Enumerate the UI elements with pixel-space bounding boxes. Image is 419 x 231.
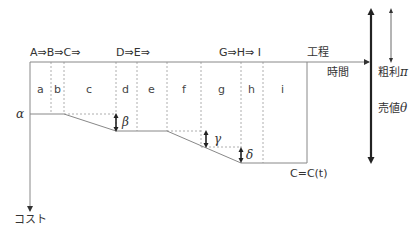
gross-profit-label: 粗利π [378,65,409,79]
cell-a: a [37,83,44,96]
process-label-abc: A⇒B⇒C⇒ [30,46,80,59]
cell-separators [51,62,263,163]
sales-value-label: 売値θ [378,101,408,115]
cell-c: c [86,83,92,96]
cell-h: h [248,83,255,96]
cell-d: d [122,83,129,96]
cost-time-diagram: A⇒B⇒C⇒ D⇒E⇒ G⇒H⇒ I 工程 時間 a b c d e f g h… [0,0,419,231]
gamma-label: γ [214,132,222,146]
alpha-label: α [16,107,24,121]
gross-profit-arrow [389,8,393,63]
time-axis-label: 時間 [327,66,349,79]
cell-e: e [148,83,155,96]
cost-curve [30,114,307,163]
delta-label: δ [246,148,253,162]
cell-f: f [182,83,187,96]
process-axis-label: 工程 [307,46,329,59]
process-label-ghi: G⇒H⇒ I [219,46,261,59]
cost-function-label: C=C(t) [290,167,327,180]
gamma-arrow [204,130,209,148]
cell-b: b [54,83,61,96]
delta-arrow [239,147,244,163]
sales-value-arrow [368,8,375,164]
beta-label: β [121,115,129,129]
beta-arrow [114,113,119,132]
cost-axis-label: コスト [14,213,47,226]
cell-i: i [281,83,284,96]
cell-g: g [218,83,225,96]
process-label-de: D⇒E⇒ [116,46,150,59]
